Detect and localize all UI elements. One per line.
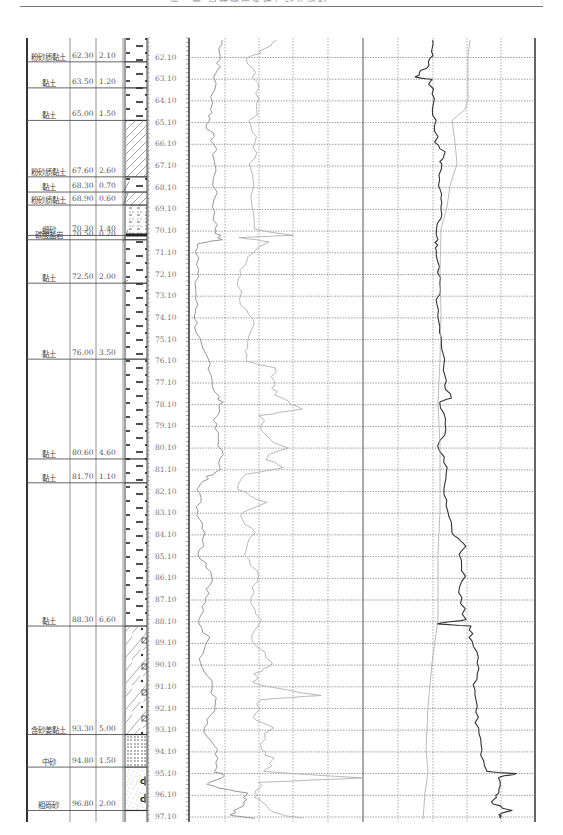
depth-label: 67.10 (155, 161, 176, 170)
lithology-pattern-medium-sand (126, 735, 147, 768)
layer-name: 粉砂质黏土 (28, 166, 69, 177)
depth-label: 89.10 (155, 638, 176, 647)
lithology-pattern-clay (126, 177, 147, 192)
lithology-pattern-fine-sand (126, 205, 147, 235)
layer-bottom-depth: 93.30 (72, 724, 95, 733)
layer-thickness: 2.60 (99, 166, 122, 175)
layer-bottom-depth: 62.30 (72, 51, 95, 60)
depth-label: 86.10 (155, 573, 176, 582)
layer-name: 含砂姜黏土 (28, 724, 69, 735)
log-curve-4 (423, 40, 470, 819)
lithology-pattern-gravel-sand (126, 767, 147, 810)
depth-label: 95.10 (155, 769, 176, 778)
depth-label: 88.10 (155, 617, 176, 626)
layer-bottom-depth: 94.80 (72, 756, 95, 765)
depth-label: 73.10 (155, 291, 176, 300)
layer-bottom-depth: 67.60 (72, 166, 95, 175)
depth-label: 94.10 (155, 747, 176, 756)
layer-name: 黏土 (28, 272, 69, 283)
carbonate-band (126, 233, 147, 236)
layer-name: 黏土 (28, 615, 69, 626)
depth-label: 93.10 (155, 725, 176, 734)
depth-label: 76.10 (155, 356, 176, 365)
layer-thickness: 2.10 (99, 51, 122, 60)
layer-name: 中砂 (28, 756, 69, 767)
lithology-pattern-silty-clay (126, 120, 147, 176)
depth-label: 79.10 (155, 421, 176, 430)
layer-name: 黏土 (28, 77, 69, 88)
layer-name: 粗砾砂 (28, 799, 69, 810)
layer-name: 黏土 (28, 472, 69, 483)
layer-thickness: 0.70 (99, 181, 122, 190)
depth-label: 62.10 (155, 53, 176, 62)
log-canvas: cc (0, 0, 563, 835)
layer-thickness: 2.00 (99, 799, 122, 808)
depth-label: 92.10 (155, 704, 176, 713)
depth-label: 90.10 (155, 660, 176, 669)
layer-thickness: 4.60 (99, 448, 122, 457)
depth-label: 77.10 (155, 378, 176, 387)
depth-label: 75.10 (155, 335, 176, 344)
depth-label: 85.10 (155, 552, 176, 561)
depth-label: 64.10 (155, 96, 176, 105)
depth-label: 87.10 (155, 595, 176, 604)
depth-label: 97.10 (155, 812, 176, 821)
calcareous-marker: c (140, 777, 145, 786)
calcareous-marker: c (140, 795, 145, 804)
layer-bottom-depth: 81.70 (72, 472, 95, 481)
depth-label: 71.10 (155, 248, 176, 257)
layer-name: 黏土 (28, 348, 69, 359)
lithology-pattern-calcareous-clay (126, 626, 147, 735)
layer-bottom-depth: 80.60 (72, 448, 95, 457)
depth-label: 91.10 (155, 682, 176, 691)
layer-name: 黏土 (28, 181, 69, 192)
depth-label: 63.10 (155, 74, 176, 83)
depth-label: 72.10 (155, 270, 176, 279)
layer-thickness: 5.00 (99, 724, 122, 733)
layer-thickness: 0.60 (99, 194, 122, 203)
lithology-pattern-clay (126, 88, 147, 121)
depth-label: 68.10 (155, 183, 176, 192)
layer-name: 粉砂质黏土 (28, 51, 69, 62)
lithology-pattern-clay (126, 38, 147, 62)
lithology-pattern-clay (126, 459, 147, 483)
layer-thickness: 2.00 (99, 272, 122, 281)
depth-label: 82.10 (155, 487, 176, 496)
layer-thickness: 0.20 (99, 229, 122, 238)
depth-label: 66.10 (155, 139, 176, 148)
lithology-pattern-clay (126, 240, 147, 283)
layer-name: 黏土 (28, 109, 69, 120)
layer-bottom-depth: 68.90 (72, 194, 95, 203)
depth-label: 80.10 (155, 443, 176, 452)
layer-name: 粉砂质黏土 (28, 194, 69, 205)
depth-label: 96.10 (155, 790, 176, 799)
depth-label: 70.10 (155, 226, 176, 235)
depth-label: 84.10 (155, 530, 176, 539)
lithology-pattern-clay (126, 483, 147, 626)
log-curve-2 (237, 40, 363, 818)
layer-bottom-depth: 70.50 (72, 229, 95, 238)
depth-label: 83.10 (155, 508, 176, 517)
layer-bottom-depth: 72.50 (72, 272, 95, 281)
layer-name: 黏土 (28, 448, 69, 459)
layer-thickness: 1.50 (99, 109, 122, 118)
layer-thickness: 3.50 (99, 348, 122, 357)
layer-thickness: 1.10 (99, 472, 122, 481)
lithology-pattern-clay (126, 283, 147, 359)
layer-thickness: 1.50 (99, 756, 122, 765)
layer-bottom-depth: 88.30 (72, 615, 95, 624)
layer-bottom-depth: 63.50 (72, 77, 95, 86)
layer-thickness: 1.20 (99, 77, 122, 86)
depth-label: 78.10 (155, 400, 176, 409)
depth-label: 69.10 (155, 204, 176, 213)
depth-label: 74.10 (155, 313, 176, 322)
layer-bottom-depth: 96.80 (72, 799, 95, 808)
layer-thickness: 6.60 (99, 615, 122, 624)
layer-bottom-depth: 76.00 (72, 348, 95, 357)
depth-label: 81.10 (155, 465, 176, 474)
layer-bottom-depth: 65.00 (72, 109, 95, 118)
lithology-pattern-clay (126, 359, 147, 459)
layer-name: 碳酸盐岩 (28, 229, 69, 240)
lithology-pattern-silty-clay (126, 192, 147, 205)
depth-label: 65.10 (155, 118, 176, 127)
